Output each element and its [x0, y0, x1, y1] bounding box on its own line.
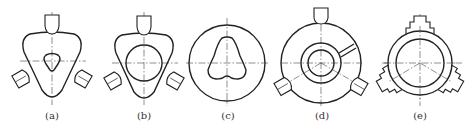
- left-jaw: [104, 71, 124, 90]
- figure-canvas: (a) (b) (c): [0, 0, 473, 130]
- top-jaw: [45, 15, 59, 34]
- right-jaw: [348, 76, 368, 95]
- panel-label-b: (b): [137, 110, 151, 121]
- right-jaw: [165, 71, 185, 90]
- panel-label-d: (d): [315, 110, 329, 121]
- right-jaw: [73, 69, 93, 88]
- panel-a: (a): [12, 12, 92, 121]
- panel-c: (c): [186, 18, 270, 121]
- top-jaw: [314, 8, 328, 24]
- panel-e: (e): [372, 14, 467, 121]
- left-jaw: [12, 69, 32, 88]
- panel-label-c: (c): [221, 110, 235, 121]
- panel-d: (d): [274, 8, 368, 121]
- panel-b: (b): [104, 12, 184, 121]
- panel-label-a: (a): [45, 110, 59, 121]
- top-jaw: [137, 16, 151, 35]
- left-jaw: [274, 76, 294, 95]
- panel-label-e: (e): [413, 110, 427, 121]
- radial-line-right: [321, 63, 354, 82]
- radial-line-left: [289, 63, 321, 82]
